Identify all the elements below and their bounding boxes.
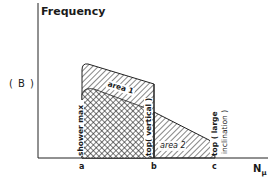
top-large-label-line2: inclination )	[221, 110, 229, 154]
x-axis-label: Nμ	[253, 164, 267, 177]
frequency-diagram	[0, 0, 276, 180]
panel-label: ( B )	[9, 79, 35, 89]
area-2-region	[154, 112, 215, 158]
tick-b: b	[151, 163, 157, 171]
top-vertical-label: top( vertical )	[145, 98, 153, 156]
top-large-label-line1: top ( large	[211, 111, 219, 156]
y-axis-label: Frequency	[41, 6, 105, 17]
area-2-label: area 2	[160, 142, 186, 150]
shower-max-label: shower max	[77, 105, 85, 156]
tick-a: a	[79, 163, 84, 171]
x-axis-label-sub: μ	[261, 169, 266, 177]
tick-c: c	[212, 163, 217, 171]
